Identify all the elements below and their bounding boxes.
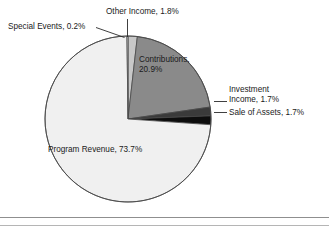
- slice-label-sale-of-assets: Sale of Assets, 1.7%: [229, 108, 304, 118]
- slice-label-other-income: Other Income, 1.8%: [106, 7, 179, 17]
- slice-label-contributions: Contributions, 20.9%: [139, 55, 203, 75]
- pie-slice-contributions: [128, 37, 210, 119]
- slice-label-investment-income-line1: Investment: [229, 85, 269, 94]
- footer-divider-top: [0, 217, 329, 218]
- slice-label-contributions-line1: Contributions,: [139, 55, 190, 64]
- slice-label-investment-income-line2: Income, 1.7%: [229, 95, 279, 104]
- slice-label-investment-income: Investment Income, 1.7%: [229, 85, 301, 105]
- slice-label-program-revenue: Program Revenue, 73.7%: [48, 145, 142, 155]
- footer-divider-bottom: [0, 225, 329, 226]
- pie-chart-figure: Special Events, 0.2% Other Income, 1.8% …: [0, 0, 329, 227]
- slice-label-contributions-line2: 20.9%: [139, 65, 162, 74]
- slice-label-special-events: Special Events, 0.2%: [8, 22, 85, 32]
- leader-line-special-events: [96, 28, 125, 38]
